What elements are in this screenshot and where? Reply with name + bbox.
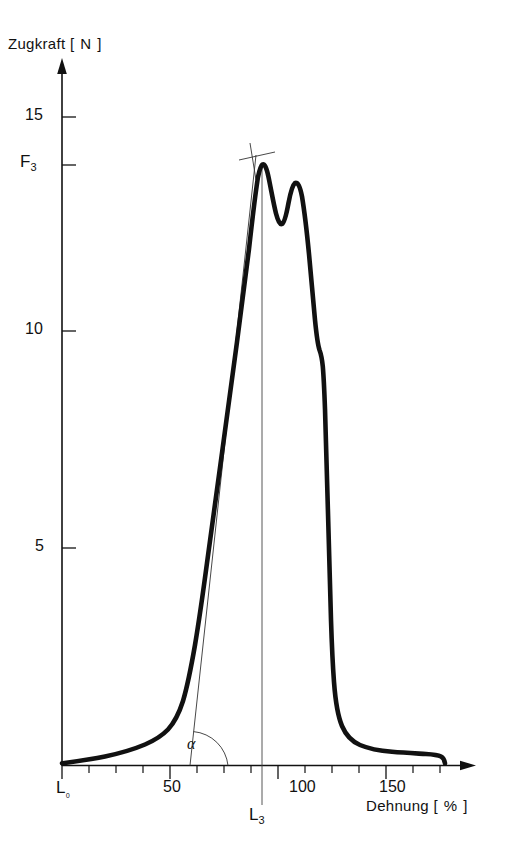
x-axis-title: Dehnung [ % ]: [366, 798, 468, 813]
x-tick-label-100: 100: [289, 779, 316, 795]
alpha-angle-label: α: [187, 736, 195, 752]
x-axis-ticks: [62, 766, 440, 780]
y-axis-title-text: Zugkraft: [8, 35, 65, 52]
y-axis: [57, 58, 67, 766]
f3-subscript: 3: [30, 161, 36, 173]
alpha-angle-arc: [194, 732, 229, 766]
x-tick-label-50: 50: [163, 779, 181, 795]
y-tick-label-15: 15: [25, 107, 43, 123]
y-tick-label-5: 5: [35, 538, 44, 554]
tensile-force-elongation-chart: Zugkraft [ N ] 15 F3 10 5 L₀ 50 100 150 …: [0, 0, 508, 854]
force-elongation-curve: [62, 164, 445, 763]
l0-subscript: ₀: [65, 787, 70, 799]
x-marker-label-l3: L3: [249, 806, 265, 823]
y-tick-label-f3: F3: [20, 153, 37, 170]
x-axis: [62, 761, 476, 771]
x-tick-label-origin-l0: L₀: [56, 779, 70, 796]
f3-base: F: [20, 152, 30, 171]
x-tick-label-150: 150: [379, 779, 406, 795]
y-axis-title: Zugkraft [ N ]: [8, 36, 102, 51]
y-tick-label-10: 10: [25, 321, 43, 337]
x-axis-unit: [ % ]: [433, 797, 468, 814]
chart-plot-area: [0, 0, 508, 854]
y-axis-unit: [ N ]: [70, 35, 103, 52]
x-axis-title-text: Dehnung: [366, 797, 429, 814]
l3-subscript: 3: [258, 814, 264, 826]
y-axis-ticks: [62, 117, 76, 548]
